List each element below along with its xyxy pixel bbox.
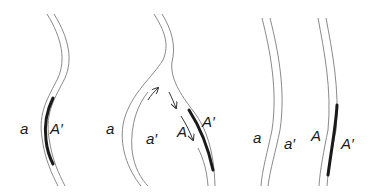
- panel-2-label-A: A: [177, 124, 187, 139]
- diagram-canvas: [0, 0, 374, 196]
- panel-3-label-a-prime: a′: [284, 136, 295, 151]
- panel-3-left-strand-2: [268, 18, 282, 186]
- panel-2-junction: [122, 14, 215, 186]
- panel-3-label-A: A: [311, 128, 321, 143]
- panel-2-strand-top-left: [122, 14, 166, 186]
- panel-2-label-a-prime: a′: [146, 131, 157, 146]
- panel-2-arrow-down-1: [169, 92, 176, 108]
- panel-3-duplexes: [261, 18, 337, 186]
- panel-2-strand-top-right: [162, 14, 215, 186]
- panel-1-duplex: [41, 14, 69, 186]
- panel-3-right-strand-1: [318, 18, 329, 186]
- panel-1-label-A-prime: A′: [50, 121, 63, 136]
- panel-2-label-a: a: [106, 121, 114, 136]
- panel-2-arrow-up: [148, 88, 158, 100]
- panel-2-label-A-prime: A′: [202, 114, 215, 129]
- panel-3-right-strand-2: [326, 18, 337, 186]
- panel-3-label-a: a: [253, 130, 261, 145]
- panel-3-left-strand-1: [261, 18, 274, 186]
- panel-1-label-a: a: [20, 121, 28, 136]
- panel-3-label-A-prime: A′: [341, 136, 354, 151]
- panel-2-strand-right-inner: [198, 148, 208, 186]
